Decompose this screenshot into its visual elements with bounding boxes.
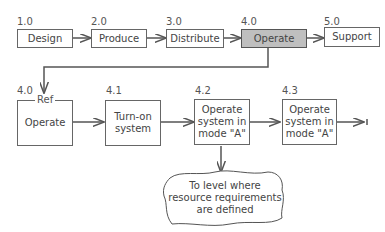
id-label: 4.2 [195, 86, 211, 96]
box-turn-on-system[interactable]: Turn-on system [105, 100, 161, 146]
id-label: 4.0 [17, 86, 33, 96]
id-label: 1.0 [17, 17, 33, 27]
id-label: 4.0 [241, 17, 257, 27]
id-label: 2.0 [91, 17, 107, 27]
box-produce[interactable]: Produce [91, 29, 147, 48]
box-distribute[interactable]: Distribute [166, 29, 224, 48]
id-label: 3.0 [166, 17, 182, 27]
box-support[interactable]: Support [324, 27, 380, 47]
box-design[interactable]: Design [17, 29, 73, 48]
box-operate-ref[interactable]: Operate [17, 100, 73, 146]
id-label: 4.1 [106, 86, 122, 96]
box-operate-mode-a-1[interactable]: Operate system in mode "A" [194, 99, 250, 145]
box-operate-mode-a-2[interactable]: Operate system in mode "A" [282, 99, 337, 145]
box-operate-highlighted[interactable]: Operate [241, 29, 307, 48]
id-label: 4.3 [282, 86, 298, 96]
cloud-text: To level where resource requirements are… [168, 180, 282, 216]
ref-label: Ref [35, 95, 55, 105]
id-label: 5.0 [324, 17, 340, 27]
